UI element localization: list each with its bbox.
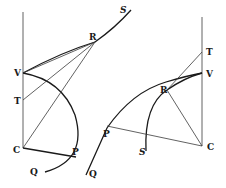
left-label-p: P	[72, 147, 79, 157]
left-label-q: Q	[30, 167, 38, 177]
left-figure: S R V T C P Q	[13, 5, 131, 177]
right-line-r-c	[167, 90, 202, 146]
left-label-t: T	[14, 96, 21, 106]
right-label-c: C	[207, 142, 214, 152]
right-line-t-r	[167, 52, 202, 90]
left-label-r: R	[89, 32, 97, 42]
right-line-p-c	[107, 126, 202, 146]
left-curve-v-to-s	[23, 10, 131, 73]
right-label-t: T	[206, 47, 213, 57]
right-label-v: V	[205, 69, 214, 79]
left-arc-v-to-q	[23, 73, 78, 172]
left-line-t-r	[23, 42, 95, 100]
right-figure: T V R P S C Q	[86, 17, 214, 179]
right-label-p: P	[103, 129, 110, 139]
right-arc-s-to-v	[146, 73, 202, 151]
left-label-c: C	[13, 145, 20, 155]
right-label-s: S	[139, 147, 146, 157]
diagram: S R V T C P Q T V R P S C Q	[0, 0, 226, 188]
right-curve-q-to-v	[86, 73, 202, 175]
right-label-q: Q	[89, 169, 97, 179]
right-label-r: R	[160, 85, 168, 95]
left-label-s: S	[120, 5, 127, 15]
left-line-c-p	[23, 148, 76, 157]
left-label-v: V	[13, 68, 22, 78]
